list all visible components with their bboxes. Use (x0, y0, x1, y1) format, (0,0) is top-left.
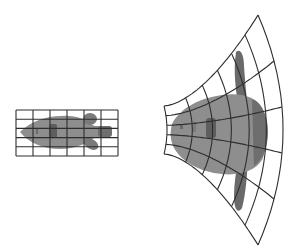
grid-arc (164, 106, 167, 154)
original-tail (98, 126, 112, 137)
transformation-figure (0, 0, 296, 249)
figure-canvas (0, 0, 296, 249)
